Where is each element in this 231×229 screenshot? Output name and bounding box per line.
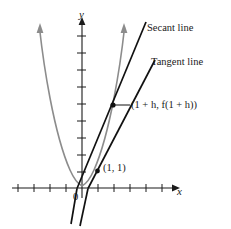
secant-upper-point-marker (110, 102, 115, 107)
tangent-line-extension (80, 189, 88, 227)
parabola-right-arrowhead (121, 23, 128, 33)
parabola-left-arrowhead (37, 23, 44, 33)
tangent-point-label: (1, 1) (103, 163, 126, 174)
tangent-line-label: Tangent line (151, 57, 203, 68)
x-axis-label: x (177, 186, 182, 197)
tangent-point-marker (95, 169, 100, 174)
origin-label: 0 (73, 192, 78, 203)
figure-container: y x 0 Secant line Tangent line (1 + h, f… (0, 0, 231, 229)
upper-point-label: (1 + h, f(1 + h)) (131, 100, 197, 111)
graph-canvas (0, 0, 231, 229)
y-axis-label: y (79, 9, 84, 20)
x-axis (12, 184, 180, 192)
secant-line-label: Secant line (147, 23, 193, 34)
